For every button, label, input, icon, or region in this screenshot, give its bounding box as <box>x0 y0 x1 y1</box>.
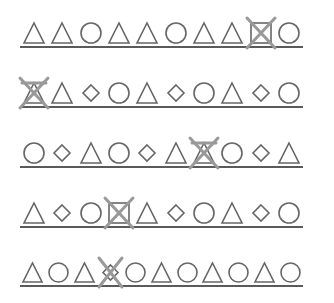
triangle-icon <box>151 262 172 283</box>
circle-icon <box>165 22 187 44</box>
triangle-icon <box>221 202 243 224</box>
answer-line <box>20 285 303 287</box>
circle-icon <box>48 262 69 283</box>
circle-icon <box>125 262 146 283</box>
crossed-square-icon <box>108 202 130 224</box>
circle-icon <box>23 142 45 164</box>
diamond-icon <box>138 142 156 164</box>
triangle-icon <box>136 202 158 224</box>
shape-worksheet <box>0 0 334 303</box>
triangle-icon <box>193 22 215 44</box>
triangle-icon <box>221 82 243 104</box>
circle-icon <box>177 262 198 283</box>
circle-icon <box>280 262 301 283</box>
crossed-square-icon <box>250 22 272 44</box>
triangle-icon <box>74 262 95 283</box>
triangle-icon <box>23 202 45 224</box>
crossed-triangle-icon <box>23 82 45 104</box>
circle-icon <box>108 82 130 104</box>
circle-icon <box>80 202 102 224</box>
triangle-icon <box>278 142 300 164</box>
triangle-icon <box>80 142 102 164</box>
crossed-diamond-icon <box>102 262 119 283</box>
diamond-icon <box>82 82 100 104</box>
diamond-icon <box>252 82 270 104</box>
triangle-icon <box>136 82 158 104</box>
triangle-icon <box>254 262 275 283</box>
answer-line <box>20 46 303 48</box>
diamond-icon <box>252 202 270 224</box>
answer-line <box>20 226 303 228</box>
circle-icon <box>228 262 249 283</box>
crossed-triangle-icon <box>193 142 215 164</box>
diamond-icon <box>167 82 185 104</box>
triangle-icon <box>136 22 158 44</box>
circle-icon <box>193 202 215 224</box>
triangle-icon <box>51 82 73 104</box>
answer-line <box>20 106 303 108</box>
triangle-icon <box>165 142 187 164</box>
triangle-icon <box>108 22 130 44</box>
diamond-icon <box>53 142 71 164</box>
triangle-icon <box>23 22 45 44</box>
triangle-icon <box>51 22 73 44</box>
circle-icon <box>221 142 243 164</box>
circle-icon <box>278 22 300 44</box>
circle-icon <box>193 82 215 104</box>
circle-icon <box>278 202 300 224</box>
diamond-icon <box>252 142 270 164</box>
triangle-icon <box>202 262 223 283</box>
diamond-icon <box>53 202 71 224</box>
triangle-icon <box>22 262 43 283</box>
answer-line <box>20 166 303 168</box>
triangle-icon <box>221 22 243 44</box>
diamond-icon <box>167 202 185 224</box>
circle-icon <box>278 82 300 104</box>
circle-icon <box>80 22 102 44</box>
circle-icon <box>108 142 130 164</box>
